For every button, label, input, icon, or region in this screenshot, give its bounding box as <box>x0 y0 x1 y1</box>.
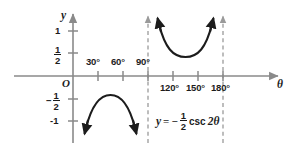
fraction-denominator: 2 <box>53 101 60 111</box>
y-axis-label: y <box>61 10 66 22</box>
fraction-denominator: 2 <box>180 121 187 131</box>
equation-equals: = <box>163 115 169 127</box>
equation-function-name: csc <box>189 116 206 127</box>
y-tick-label-neg-1: -1 <box>50 116 58 126</box>
curve-arrow-lower-right <box>133 120 137 134</box>
x-tick-label-60: 60° <box>111 57 125 67</box>
x-tick-label-180: 180° <box>211 83 230 93</box>
equation-fraction-one-half: 1 2 <box>180 111 187 132</box>
y-tick-label-half: 1 2 <box>54 45 61 66</box>
fraction-denominator: 2 <box>54 55 61 65</box>
plot-canvas <box>0 0 296 147</box>
origin-label: O <box>62 78 70 89</box>
equation-argument: 2θ <box>208 115 220 127</box>
x-tick-label-30: 30° <box>86 57 100 67</box>
equation-annotation: y = − 1 2 csc 2θ <box>156 111 219 132</box>
y-tick-label-neg-1-text: -1 <box>50 116 58 126</box>
curve-arrow-upper-left <box>158 18 162 32</box>
fraction-one-half: 1 2 <box>54 45 61 66</box>
equation-lhs: y <box>156 115 161 127</box>
curve-arrow-upper-right <box>210 18 214 32</box>
fraction-one-half-negative: 1 2 <box>53 91 60 112</box>
x-tick-label-150: 150° <box>186 83 205 93</box>
fraction-numerator: 1 <box>53 91 60 102</box>
y-tick-label-1: 1 <box>55 26 60 36</box>
curve-arrow-lower-left <box>85 120 89 134</box>
fraction-numerator: 1 <box>54 45 61 56</box>
graph-figure: y θ O 1 1 2 − 1 2 -1 30° 60° 90° 120° 15… <box>0 0 296 147</box>
fraction-numerator: 1 <box>180 111 187 122</box>
curve-branch-upper <box>159 24 212 57</box>
y-tick-label-1-text: 1 <box>55 26 60 36</box>
curve-branch-lower <box>86 95 135 128</box>
x-axis-label: θ <box>277 79 283 91</box>
x-tick-label-120: 120° <box>160 83 179 93</box>
minus-sign: − <box>46 96 52 106</box>
equation-minus-sign: − <box>171 115 177 127</box>
y-tick-label-neg-half: − 1 2 <box>46 91 60 112</box>
x-tick-label-90: 90° <box>136 57 150 67</box>
